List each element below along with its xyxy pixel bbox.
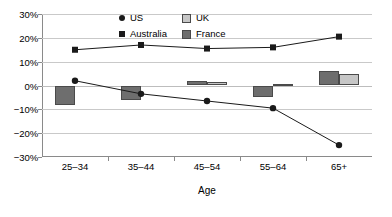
marker-us-1 [138, 91, 144, 97]
chart-legend: US UK Australia France [118, 10, 264, 42]
legend-label-australia: Australia [130, 29, 167, 39]
legend-item-australia: Australia [118, 29, 182, 39]
x-tick-label: 45–54 [194, 161, 220, 172]
y-tick-label: 20% [19, 32, 38, 43]
x-axis-title: Age [42, 185, 372, 196]
x-tick-label: 35–44 [128, 161, 154, 172]
legend-item-france: France [182, 29, 264, 39]
y-axis: 30%20%10%0%−10%−20%−30% [0, 14, 38, 157]
circle-marker-icon [119, 15, 125, 21]
legend-item-us: US [118, 13, 182, 23]
legend-label-uk: UK [196, 13, 209, 23]
marker-australia-4 [336, 34, 342, 40]
light-gray-box-icon [182, 14, 191, 23]
y-tick-label: −30% [14, 152, 38, 163]
y-tick-label: −20% [14, 128, 38, 139]
x-tick-label: 55–64 [260, 161, 286, 172]
chart-container: 30%20%10%0%−10%−20%−30% 25–3435–4445–545… [0, 0, 392, 217]
marker-us-0 [72, 78, 78, 84]
x-tick-label: 25–34 [62, 161, 88, 172]
marker-australia-2 [204, 46, 210, 52]
marker-australia-3 [270, 44, 276, 50]
marker-australia-1 [138, 42, 144, 48]
line-us [75, 81, 339, 145]
legend-label-us: US [130, 13, 143, 23]
x-tick-label: 65+ [331, 161, 347, 172]
dark-gray-box-icon [182, 30, 191, 39]
x-axis-labels: 25–3435–4445–5455–6465+ [42, 161, 372, 177]
marker-us-2 [204, 98, 210, 104]
marker-australia-0 [72, 47, 78, 53]
marker-us-3 [270, 105, 276, 111]
y-tick-label: 0% [24, 80, 38, 91]
y-tick-label: 10% [19, 56, 38, 67]
legend-item-uk: UK [182, 13, 264, 23]
legend-label-france: France [196, 29, 226, 39]
y-tick-mark [38, 157, 42, 158]
y-tick-label: 30% [19, 9, 38, 20]
marker-us-4 [336, 142, 342, 148]
y-tick-label: −10% [14, 104, 38, 115]
square-marker-icon [119, 31, 125, 37]
